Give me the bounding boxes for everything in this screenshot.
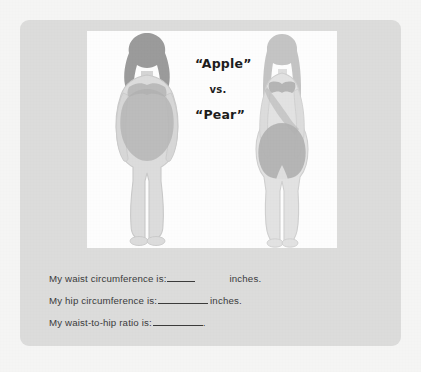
- prompt-hip-unit: inches.: [210, 295, 242, 306]
- waist-circumference-input[interactable]: [167, 272, 195, 282]
- prompt-waist-to-hip-ratio: My waist-to-hip ratio is:.: [49, 312, 379, 334]
- prompt-waist-unit: inches.: [229, 273, 261, 284]
- comparison-caption: “Apple” vs. “Pear”: [195, 56, 241, 122]
- worksheet-card: “Apple” vs. “Pear” My waist circumferenc…: [20, 20, 401, 346]
- right-foot: [282, 239, 298, 247]
- chest-shading: [128, 83, 167, 97]
- caption-apple: “Apple”: [195, 56, 241, 71]
- pear-body-shape-figure: [239, 31, 325, 248]
- right-foot: [147, 237, 165, 246]
- caption-pear: “Pear”: [195, 107, 241, 122]
- prompt-hip-circumference: My hip circumference is:inches.: [49, 290, 379, 312]
- worksheet-page: “Apple” vs. “Pear” My waist circumferenc…: [0, 0, 421, 372]
- measurement-prompts: My waist circumference is:inches. My hip…: [49, 268, 379, 334]
- caption-vs: vs.: [195, 84, 241, 95]
- left-foot: [130, 237, 148, 246]
- prompt-ratio-unit: .: [203, 317, 206, 328]
- hip-circumference-input[interactable]: [158, 294, 208, 304]
- prompt-waist-circumference: My waist circumference is:inches.: [49, 268, 379, 290]
- prompt-ratio-label: My waist-to-hip ratio is:: [49, 317, 152, 328]
- prompt-waist-label: My waist circumference is:: [49, 273, 166, 284]
- body-shape-illustration-panel: “Apple” vs. “Pear”: [87, 31, 337, 248]
- apple-body-shape-figure: [99, 31, 195, 248]
- left-foot: [267, 239, 283, 247]
- prompt-hip-label: My hip circumference is:: [49, 295, 157, 306]
- waist-to-hip-ratio-input[interactable]: [153, 316, 203, 326]
